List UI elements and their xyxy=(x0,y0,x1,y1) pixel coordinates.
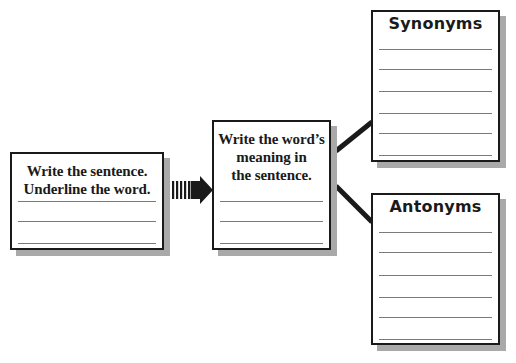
write-line[interactable] xyxy=(220,221,323,222)
write-line[interactable] xyxy=(220,201,323,202)
antonyms-title: Antonyms xyxy=(373,198,498,216)
write-line[interactable] xyxy=(379,155,492,156)
meaning-box: Write the word’s meaning in the sentence… xyxy=(212,120,331,250)
write-line[interactable] xyxy=(379,113,492,114)
write-line[interactable] xyxy=(379,252,492,253)
connector-to-synonyms xyxy=(336,122,372,151)
sentence-box: Write the sentence. Underline the word. xyxy=(10,152,164,250)
meaning-title-line-2: meaning in xyxy=(214,148,329,166)
write-line[interactable] xyxy=(379,297,492,298)
write-line[interactable] xyxy=(379,91,492,92)
write-line[interactable] xyxy=(379,339,492,340)
meaning-title-line-3: the sentence. xyxy=(214,166,329,184)
write-line[interactable] xyxy=(18,221,156,222)
write-line[interactable] xyxy=(18,201,156,202)
write-line[interactable] xyxy=(379,232,492,233)
sentence-box-title: Write the sentence. Underline the word. xyxy=(12,162,162,198)
striped-right-arrow-icon xyxy=(172,176,213,204)
write-line[interactable] xyxy=(379,49,492,50)
synonyms-box: Synonyms xyxy=(371,10,500,162)
meaning-title-line-1: Write the word’s xyxy=(214,130,329,148)
sentence-title-line-2: Underline the word. xyxy=(12,180,162,198)
write-line[interactable] xyxy=(220,243,323,244)
write-line[interactable] xyxy=(379,317,492,318)
sentence-title-line-1: Write the sentence. xyxy=(12,162,162,180)
synonyms-title: Synonyms xyxy=(373,15,498,33)
connector-to-antonyms xyxy=(336,186,372,222)
meaning-box-title: Write the word’s meaning in the sentence… xyxy=(214,130,329,184)
write-line[interactable] xyxy=(379,133,492,134)
write-line[interactable] xyxy=(379,275,492,276)
write-line[interactable] xyxy=(379,69,492,70)
antonyms-box: Antonyms xyxy=(371,193,500,345)
write-line[interactable] xyxy=(18,243,156,244)
